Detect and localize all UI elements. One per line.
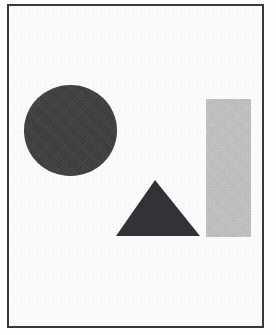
- rectangle-label: Rectangle: [205, 98, 206, 99]
- circle-texture: [24, 85, 117, 176]
- circle-label: Circle: [23, 84, 24, 85]
- figure-canvas: Circle Triangle Rectangle: [0, 0, 276, 335]
- triangle-label: Triangle: [154, 179, 155, 180]
- triangle-shape: Triangle: [116, 180, 200, 236]
- rectangle-texture: [206, 99, 251, 237]
- figure-plate: Circle Triangle Rectangle: [7, 4, 264, 328]
- circle-shape: Circle: [24, 85, 117, 176]
- rectangle-shape: Rectangle: [206, 99, 251, 237]
